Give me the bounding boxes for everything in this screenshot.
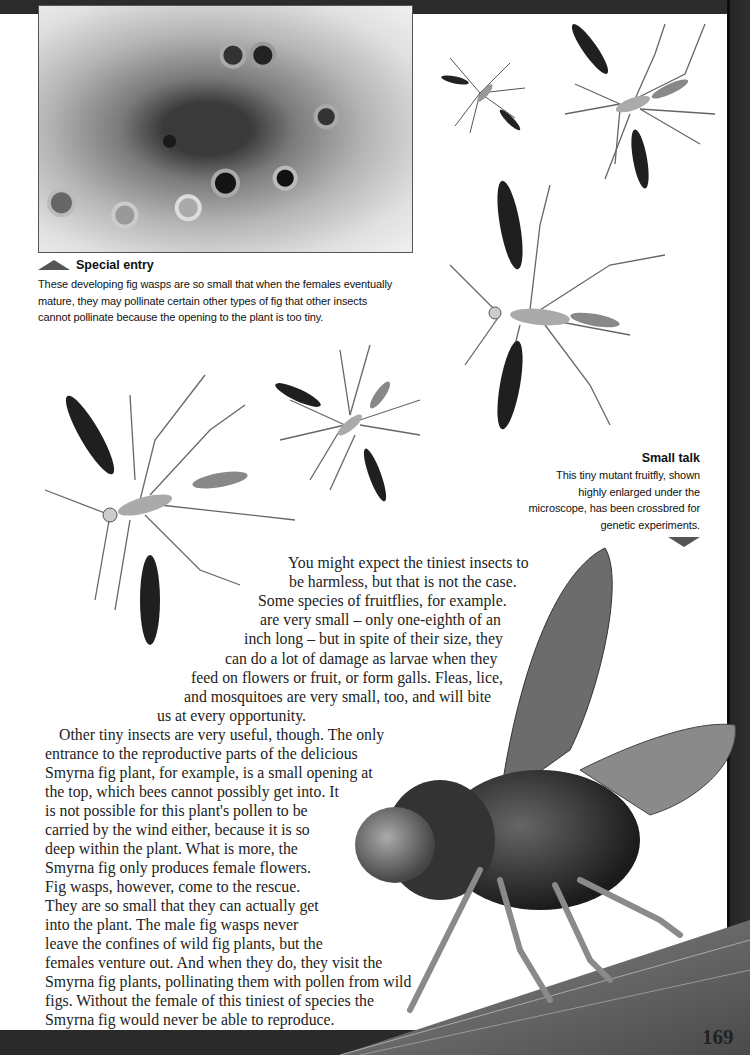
body-line: females venture out. And when they do, t… [45, 953, 382, 972]
body-line: and mosquitoes are very small, too, and … [184, 687, 491, 706]
body-line: into the plant. The male fig wasps never [45, 915, 298, 934]
body-line: inch long – but in spite of their size, … [244, 629, 503, 648]
body-line: is not possible for this plant's pollen … [45, 801, 308, 820]
body-text: You might expect the tiniest insects to … [0, 0, 727, 1030]
body-line: feed on flowers or fruit, or form galls.… [191, 668, 503, 687]
body-line: be harmless, but that is not the case. [289, 572, 517, 591]
body-line: carried by the wind either, because it i… [45, 820, 310, 839]
body-line: the top, which bees cannot possibly get … [45, 782, 339, 801]
body-line: us at every opportunity. [157, 706, 306, 725]
body-line: are very small – only one-eighth of an [260, 610, 501, 629]
body-line: Smyrna fig only produces female flowers. [45, 858, 311, 877]
body-line: Smyrna fig would never be able to reprod… [45, 1010, 335, 1029]
body-line: Smyrna fig plants, pollinating them with… [45, 972, 411, 991]
body-line: Smyrna fig plant, for example, is a smal… [45, 763, 373, 782]
body-line: deep within the plant. What is more, the [45, 839, 298, 858]
body-line: Some species of fruitflies, for example. [258, 591, 507, 610]
body-line: leave the confines of wild fig plants, b… [45, 934, 323, 953]
body-line: can do a lot of damage as larvae when th… [225, 649, 497, 668]
body-line: entrance to the reproductive parts of th… [45, 744, 358, 763]
body-line: figs. Without the female of this tiniest… [45, 991, 374, 1010]
body-line: They are so small that they can actually… [45, 896, 319, 915]
body-line: Fig wasps, however, come to the rescue. [45, 877, 300, 896]
body-line: You might expect the tiniest insects to [288, 553, 529, 572]
page-number: 169 [702, 1025, 734, 1050]
body-line: Other tiny insects are very useful, thou… [59, 725, 384, 744]
